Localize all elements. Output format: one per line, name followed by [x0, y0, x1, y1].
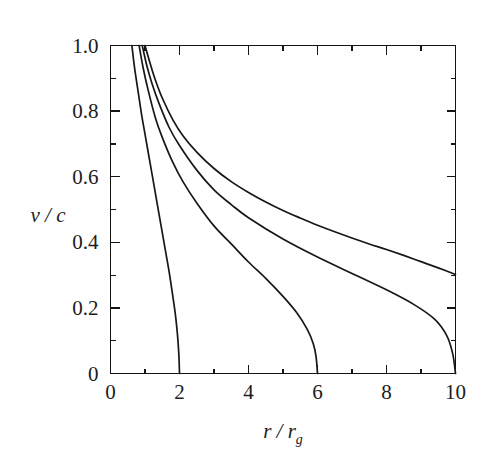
x-tick-label: 4 [243, 380, 254, 404]
x-axis-label-base: r / r [263, 419, 297, 443]
velocity-profile-chart: 0246810 00.20.40.60.81.0 v / c r / rg [0, 0, 496, 470]
y-tick-label: 0 [88, 362, 99, 386]
y-tick-label: 1.0 [72, 34, 98, 58]
x-tick-label: 10 [445, 380, 466, 404]
y-tick-label: 0.2 [72, 296, 98, 320]
y-axis-label: v / c [31, 203, 67, 227]
x-axis-label-subscript: g [296, 432, 303, 447]
x-tick-label: 6 [312, 380, 323, 404]
y-tick-label: 0.4 [72, 230, 99, 254]
y-tick-label: 0.8 [72, 99, 98, 123]
x-tick-label: 0 [105, 380, 116, 404]
x-tick-label: 8 [381, 380, 392, 404]
x-tick-label: 2 [174, 380, 185, 404]
figure-container: 0246810 00.20.40.60.81.0 v / c r / rg [0, 0, 496, 470]
y-tick-label: 0.6 [72, 165, 98, 189]
